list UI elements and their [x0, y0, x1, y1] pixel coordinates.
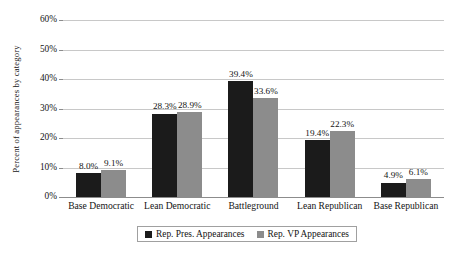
- bar: [381, 183, 406, 197]
- chart-legend: Rep. Pres. AppearancesRep. VP Appearance…: [137, 226, 357, 242]
- y-tick-label: 20%: [17, 133, 57, 142]
- legend-swatch-icon: [257, 231, 264, 238]
- bar-value-label: 6.1%: [400, 168, 437, 177]
- y-tick-label: 40%: [17, 74, 57, 83]
- bar: [177, 112, 202, 197]
- bar: [330, 131, 355, 197]
- bar-group: 28.3%28.9%: [139, 20, 215, 197]
- bar-group: 8.0%9.1%: [63, 20, 139, 197]
- bar: [152, 114, 177, 197]
- bar-group: 4.9%6.1%: [368, 20, 444, 197]
- bar-value-label: 22.3%: [324, 120, 361, 129]
- bar-group: 19.4%22.3%: [292, 20, 368, 197]
- x-category-label: Base Republican: [356, 200, 456, 211]
- plot-area: 8.0%9.1%28.3%28.9%39.4%33.6%19.4%22.3%4.…: [63, 20, 444, 197]
- bar-value-label: 9.1%: [95, 159, 132, 168]
- axis-baseline: [63, 197, 444, 198]
- y-tick-label: 60%: [17, 15, 57, 24]
- bar-group: 39.4%33.6%: [215, 20, 291, 197]
- legend-label: Rep. VP Appearances: [268, 229, 350, 239]
- bar: [406, 179, 431, 197]
- bar: [305, 140, 330, 197]
- legend-entry[interactable]: Rep. VP Appearances: [257, 229, 350, 239]
- legend-swatch-icon: [145, 231, 152, 238]
- bar: [228, 81, 253, 197]
- y-tick-label: 30%: [17, 104, 57, 113]
- legend-entry[interactable]: Rep. Pres. Appearances: [145, 229, 245, 239]
- legend-label: Rep. Pres. Appearances: [156, 229, 245, 239]
- bar-value-label: 39.4%: [222, 70, 259, 79]
- bar: [101, 170, 126, 197]
- y-tick-label: 10%: [17, 163, 57, 172]
- bar-value-label: 33.6%: [247, 87, 284, 96]
- grouped-bar-chart: Percent of appearances by category 60%50…: [0, 0, 464, 259]
- bar: [76, 173, 101, 197]
- bar: [253, 98, 278, 197]
- y-tick-label: 50%: [17, 45, 57, 54]
- bar-value-label: 28.9%: [171, 101, 208, 110]
